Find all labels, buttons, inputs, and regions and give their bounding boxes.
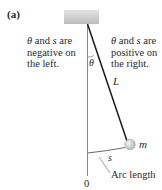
- panel-label: (a): [7, 9, 20, 21]
- ceiling-support: [64, 10, 99, 24]
- mass-label: m: [139, 139, 147, 151]
- right-note: θ and s are positive on the right.: [111, 35, 157, 70]
- left-note: θ and s are negative on the left.: [27, 35, 76, 70]
- length-label: L: [113, 76, 119, 88]
- arc-label: s: [108, 152, 112, 164]
- angle-label: θ: [89, 57, 94, 69]
- arc-length-caption: Arc length: [111, 169, 156, 181]
- arc-length-path: [88, 148, 126, 154]
- origin-label: 0: [84, 178, 89, 190]
- pendulum-diagram: [0, 0, 162, 190]
- pendulum-bob: [125, 139, 135, 149]
